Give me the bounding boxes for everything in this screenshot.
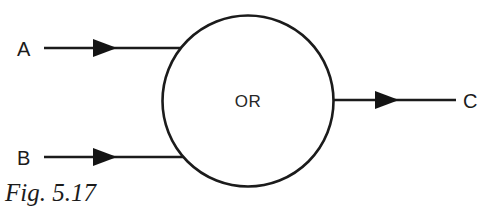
arrowhead-right-icon-output-c (375, 91, 399, 109)
figure-canvas: OR A B C Fig. 5.17 (0, 0, 489, 209)
figure-caption: Fig. 5.17 (4, 179, 97, 206)
arrowhead-right-icon-input-a (93, 39, 117, 57)
input-label-b: B (17, 147, 30, 169)
output-label-c: C (463, 90, 477, 112)
input-label-a: A (17, 38, 31, 60)
or-gate-label: OR (235, 92, 262, 111)
arrowhead-right-icon-input-b (93, 148, 117, 166)
or-gate-diagram: OR A B C Fig. 5.17 (0, 0, 489, 209)
